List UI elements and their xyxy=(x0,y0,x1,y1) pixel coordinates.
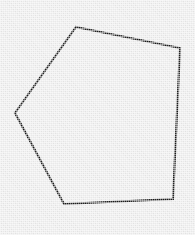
pentagon-shape xyxy=(15,27,180,204)
pentagon-drawing xyxy=(0,0,195,235)
image-canvas xyxy=(0,0,195,235)
